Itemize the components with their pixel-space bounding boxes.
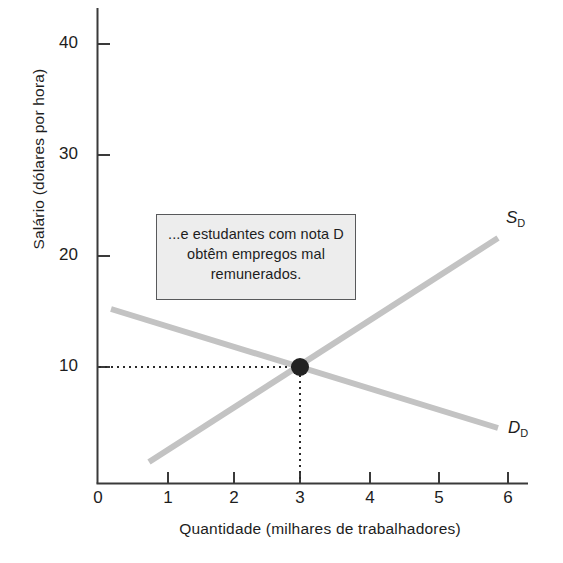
equilibrium-point (291, 358, 309, 376)
x-tick-label-1: 1 (155, 488, 181, 508)
x-tick-label-6: 6 (495, 488, 521, 508)
y-tick-label-20: 20 (44, 245, 78, 265)
x-tick-label-4: 4 (357, 488, 383, 508)
y-tick-label-40: 40 (44, 33, 78, 53)
x-tick-label-2: 2 (221, 488, 247, 508)
demand-curve-label: DD (508, 418, 528, 439)
x-axis-title: Quantidade (milhares de trabalhadores) (110, 520, 530, 538)
chart-figure: Salário (dólares por hora) Quantidade (m… (0, 0, 563, 563)
annotation-callout-box: ...e estudantes com nota D obtêm emprego… (156, 214, 356, 300)
y-tick-label-30: 30 (44, 144, 78, 164)
supply-curve-label: SD (506, 208, 525, 229)
x-tick-label-3: 3 (287, 488, 313, 508)
x-tick-label-0: 0 (85, 488, 111, 508)
demand-label-sub: D (520, 427, 528, 439)
supply-label-main: S (506, 208, 517, 227)
y-tick-label-10: 10 (44, 356, 78, 376)
demand-label-main: D (508, 418, 520, 437)
supply-label-sub: D (517, 217, 525, 229)
annotation-callout-text: ...e estudantes com nota D obtêm emprego… (165, 224, 347, 284)
x-tick-label-5: 5 (426, 488, 452, 508)
